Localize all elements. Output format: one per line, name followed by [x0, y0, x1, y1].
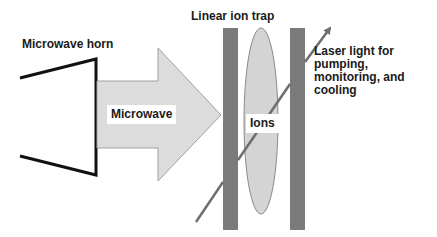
laser-light-label: Laser light for pumping, monitoring, and…	[314, 45, 437, 97]
microwave-horn	[20, 59, 96, 175]
electrode-right	[290, 28, 305, 230]
linear-ion-trap-label: Linear ion trap	[191, 10, 274, 23]
microwave-label: Microwave	[107, 105, 176, 124]
electrode-left	[223, 28, 238, 230]
ions-label: Ions	[246, 114, 279, 133]
microwave-horn-label: Microwave horn	[22, 38, 113, 51]
ion-trap-diagram	[0, 0, 437, 237]
